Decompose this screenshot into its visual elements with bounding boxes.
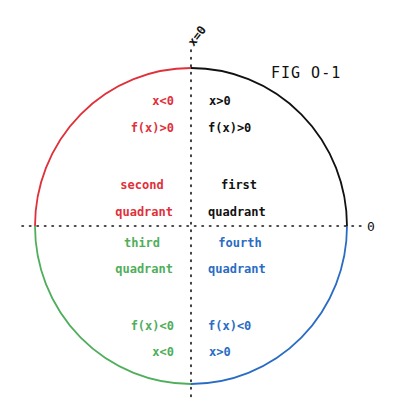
fourth-x-condition: x>0 xyxy=(209,345,231,359)
arc-third-quadrant xyxy=(35,226,191,384)
first-x-condition: x>0 xyxy=(209,94,231,108)
fourth-quadrant-name: fourth xyxy=(218,236,261,250)
arc-second-quadrant xyxy=(35,68,191,226)
figure-title: FIG O-1 xyxy=(271,64,341,82)
first-quadrant-word: quadrant xyxy=(208,205,266,219)
third-fx-condition: f(x)<0 xyxy=(131,319,174,333)
fourth-quadrant-word: quadrant xyxy=(208,262,266,276)
third-quadrant-name: third xyxy=(124,236,160,250)
second-fx-condition: f(x)>0 xyxy=(131,121,174,135)
first-quadrant-name: first xyxy=(221,178,257,192)
second-x-condition: x<0 xyxy=(152,94,174,108)
first-fx-condition: f(x)>0 xyxy=(208,121,251,135)
vertical-axis-label: x=0 xyxy=(185,23,209,49)
fourth-fx-condition: f(x)<0 xyxy=(208,319,251,333)
quadrant-diagram: x=0 0 FIG O-1 x<0 f(x)>0 second quadrant… xyxy=(0,0,395,420)
third-quadrant-word: quadrant xyxy=(115,262,173,276)
arc-first-quadrant xyxy=(191,68,347,226)
second-quadrant-name: second xyxy=(120,178,163,192)
arc-fourth-quadrant xyxy=(191,226,347,384)
third-x-condition: x<0 xyxy=(152,345,174,359)
second-quadrant-word: quadrant xyxy=(115,205,173,219)
horizontal-axis-label: 0 xyxy=(367,219,375,234)
